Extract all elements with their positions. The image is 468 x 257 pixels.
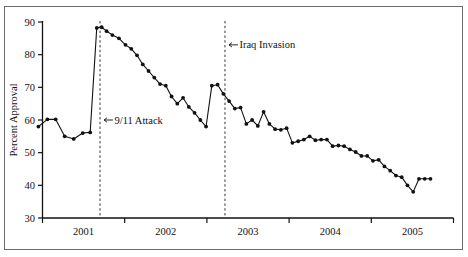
y-tick-label: 50 xyxy=(25,147,36,158)
series-point xyxy=(221,92,225,96)
series-point xyxy=(124,43,128,47)
series-point xyxy=(354,150,358,154)
series-point xyxy=(100,25,104,29)
series-point xyxy=(244,122,248,126)
annotation-arrow-2 xyxy=(229,43,238,47)
series-point xyxy=(365,154,369,158)
series-point xyxy=(417,177,421,181)
series-point xyxy=(63,134,67,138)
chart-labels: 3040506070809020012002200320042005Percen… xyxy=(8,17,423,237)
annotation-label-2: Iraq Invasion xyxy=(239,39,295,50)
series-point xyxy=(273,127,277,131)
series-point xyxy=(95,26,99,30)
series-point xyxy=(158,82,162,86)
y-tick-label: 80 xyxy=(25,49,36,60)
series-point xyxy=(342,144,346,148)
x-tick-label: 2003 xyxy=(238,226,259,237)
series-point xyxy=(406,183,410,187)
series-point xyxy=(325,138,329,142)
approval-line-chart: 3040506070809020012002200320042005Percen… xyxy=(0,0,468,257)
series-point xyxy=(400,175,404,179)
series-point xyxy=(233,107,237,111)
series-point xyxy=(181,96,185,100)
series-point xyxy=(210,84,214,88)
series-point xyxy=(117,36,121,40)
series-point xyxy=(152,76,156,80)
series-point xyxy=(256,124,260,128)
series-point xyxy=(250,118,254,122)
series-point xyxy=(371,159,375,163)
series-point xyxy=(54,117,58,121)
series-point xyxy=(36,125,40,129)
data-series xyxy=(36,25,432,193)
y-tick-label: 30 xyxy=(25,213,36,224)
x-tick-label: 2002 xyxy=(155,226,176,237)
x-tick-label: 2001 xyxy=(73,226,94,237)
series-point xyxy=(308,134,312,138)
series-point xyxy=(164,84,168,88)
y-tick-label: 40 xyxy=(25,180,36,191)
x-tick-label: 2005 xyxy=(402,226,423,237)
series-point xyxy=(46,117,50,121)
y-axis-title: Percent Approval xyxy=(8,83,19,156)
series-point xyxy=(383,164,387,168)
series-point xyxy=(411,190,415,194)
series-point xyxy=(88,131,92,135)
y-tick-label: 60 xyxy=(25,115,36,126)
series-point xyxy=(302,138,306,142)
series-point xyxy=(267,122,271,126)
series-point xyxy=(227,99,231,103)
series-point xyxy=(170,95,174,99)
series-point xyxy=(105,29,109,33)
series-point xyxy=(187,105,191,109)
series-point xyxy=(279,128,283,132)
series-point xyxy=(193,111,197,115)
series-point xyxy=(423,177,427,181)
y-tick-label: 90 xyxy=(25,17,36,28)
series-point xyxy=(147,69,151,73)
series-point xyxy=(129,47,133,51)
series-point xyxy=(175,102,179,106)
series-point xyxy=(394,174,398,178)
series-point xyxy=(314,138,318,142)
series-point xyxy=(135,53,139,57)
series-point xyxy=(388,169,392,173)
series-point xyxy=(429,177,433,181)
series-point xyxy=(198,118,202,122)
series-point xyxy=(331,144,335,148)
chart-figure: 3040506070809020012002200320042005Percen… xyxy=(0,0,468,257)
series-point xyxy=(348,148,352,152)
x-tick-label: 2004 xyxy=(320,226,342,237)
series-point xyxy=(285,126,289,130)
series-point xyxy=(337,144,341,148)
annotation-label-1: 9/11 Attack xyxy=(115,115,164,126)
series-point xyxy=(72,137,76,141)
series-point xyxy=(319,138,323,142)
annotation-arrow-1 xyxy=(104,118,113,122)
series-point xyxy=(81,131,85,135)
series-point xyxy=(377,158,381,162)
series-point xyxy=(239,106,243,110)
y-tick-label: 70 xyxy=(25,82,36,93)
series-point xyxy=(360,154,364,158)
series-point xyxy=(216,83,220,87)
series-point xyxy=(204,125,208,129)
series-point xyxy=(290,141,294,145)
series-point xyxy=(110,33,114,37)
series-point xyxy=(296,139,300,143)
series-point xyxy=(141,63,145,67)
series-point xyxy=(262,110,266,114)
